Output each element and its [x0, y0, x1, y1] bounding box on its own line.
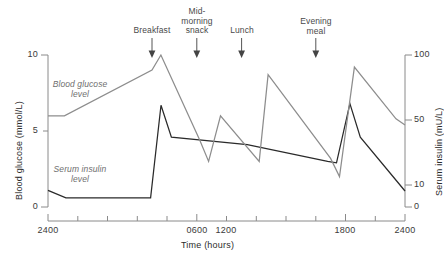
right-axis-title: Serum insulin (mU/L) — [434, 107, 444, 196]
x-axis-title: Time (hours) — [181, 240, 234, 250]
arrow-evening-meal — [312, 38, 319, 58]
annotation-lunch: Lunch — [217, 26, 267, 36]
arrow-mid-morning-snack — [193, 38, 200, 58]
left-axis-tick-10: 10 — [22, 49, 38, 59]
series-blood-glucose-level — [48, 55, 405, 177]
x-axis-tick-2400-end: 2400 — [388, 225, 422, 235]
x-axis — [48, 214, 405, 221]
annotation-arrows — [149, 38, 320, 58]
right-axis-tick-100: 100 — [414, 49, 436, 59]
right-axis-tick-10: 10 — [414, 179, 436, 189]
curve-label-blood-glucose: Blood glucose level — [44, 79, 116, 99]
right-axis-tick-0: 0 — [414, 201, 436, 211]
x-axis-tick-1800: 1800 — [328, 225, 362, 235]
left-axis-tick-0: 0 — [22, 201, 38, 211]
annotation-mid-morning-snack: Mid- morning snack — [171, 7, 223, 36]
right-axis-tick-50: 50 — [414, 114, 436, 124]
left-axis — [41, 55, 48, 207]
x-axis-tick-1200: 1200 — [209, 225, 243, 235]
arrow-lunch — [238, 38, 245, 58]
x-axis-tick-2400-start: 2400 — [31, 225, 65, 235]
arrow-breakfast — [149, 38, 156, 58]
right-axis — [405, 55, 412, 207]
curve-label-serum-insulin: Serum insulin level — [44, 164, 116, 184]
left-axis-tick-5: 5 — [22, 125, 38, 135]
left-axis-title: Blood glucose (mmol/L) — [14, 101, 24, 200]
annotation-evening-meal: Evening meal — [290, 17, 342, 36]
